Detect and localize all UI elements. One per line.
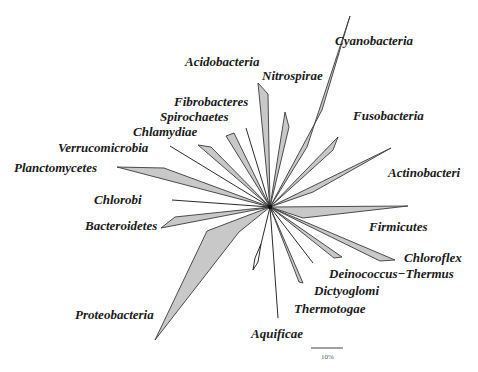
label-cyanobacteria: Cyanobacteria (335, 34, 413, 47)
label-aquificae: Aquificae (251, 327, 303, 340)
scale-bar-label: 10% (321, 354, 334, 361)
label-chloroflexi: Chloroflex (404, 251, 462, 264)
label-dictyoglomi: Dictyoglomi (314, 284, 379, 297)
label-fusobacteria: Fusobacteria (353, 109, 424, 122)
label-planctomycetes: Planctomycetes (14, 161, 97, 174)
label-nitrospirae: Nitrospirae (262, 69, 323, 82)
node-aquificae-node (253, 244, 261, 270)
label-spirochaetes: Spirochaetes (160, 110, 229, 123)
label-thermotogae: Thermotogae (294, 302, 366, 315)
label-deinococcus-thermus: Deinococcus−Thermus (329, 267, 454, 280)
clade-proteobacteria (155, 207, 270, 340)
tree-root-hub (268, 205, 272, 209)
label-proteobacteria: Proteobacteria (75, 308, 154, 321)
phylogenetic-tree-figure: Cyanobacteria Acidobacteria Nitrospirae … (0, 0, 478, 372)
label-actinobacteria: Actinobacteri (388, 166, 460, 179)
label-bacteroidetes: Bacteroidetes (85, 219, 157, 232)
label-firmicutes: Firmicutes (369, 220, 428, 233)
label-acidobacteria: Acidobacteria (185, 55, 259, 68)
label-fibrobacteres: Fibrobacteres (174, 95, 248, 108)
label-chlorobi: Chlorobi (94, 193, 142, 206)
aquificae-node-diamond (253, 244, 261, 270)
label-verrucomicrobia: Verrucomicrobia (58, 141, 148, 154)
label-chlamydiae: Chlamydiae (133, 125, 197, 138)
